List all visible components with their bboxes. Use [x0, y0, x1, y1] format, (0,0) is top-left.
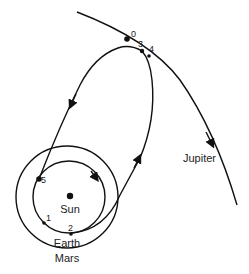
point-2-label: 2: [68, 223, 73, 233]
outbound-arrow-icon: [134, 158, 139, 168]
point-3-label: 3: [138, 39, 143, 49]
transfer-trajectory: [39, 47, 153, 233]
point-5-label: 5: [41, 175, 46, 185]
point-1-label: 1: [46, 213, 51, 223]
sun-label: Sun: [60, 203, 80, 215]
sun-dot: [67, 193, 73, 199]
inbound-arrow-icon: [71, 94, 76, 105]
mars-label: Mars: [55, 252, 80, 264]
point-0-label: 0: [131, 29, 136, 39]
jupiter-orbit: [77, 12, 237, 205]
point-3: [140, 49, 144, 53]
jupiter-label: Jupiter: [183, 152, 216, 164]
earth-label: Earth: [54, 237, 80, 249]
point-4: [147, 54, 151, 58]
point-4-label: 4: [149, 44, 154, 54]
orbit-diagram: 0 3 4 5 1 2 Sun Earth Mars Jupiter: [0, 0, 249, 274]
point-0: [124, 36, 130, 42]
